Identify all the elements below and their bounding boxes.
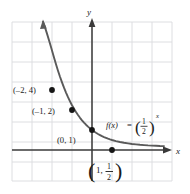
point-0-1 bbox=[89, 127, 95, 133]
paren-close: ) bbox=[115, 158, 122, 183]
base-denominator: 2 bbox=[142, 127, 146, 136]
fraction-denominator: 2 bbox=[107, 173, 111, 182]
function-name: f(x) bbox=[106, 120, 118, 130]
point-neg1-2 bbox=[69, 107, 75, 113]
func-paren-open: ( bbox=[135, 118, 141, 137]
y-axis-label: y bbox=[86, 7, 91, 17]
equals-sign: = bbox=[127, 120, 132, 130]
point-neg2-4 bbox=[49, 87, 55, 93]
point-label-0-1: (0, 1) bbox=[57, 135, 76, 145]
fraction-numerator: 1 bbox=[107, 162, 111, 171]
base-numerator: 1 bbox=[142, 117, 146, 126]
point-label-neg1-2: (–1, 2) bbox=[32, 106, 55, 116]
func-paren-close: ) bbox=[149, 118, 155, 137]
x-axis-label: x bbox=[175, 146, 180, 156]
graph-canvas: y x (–2, 4) (–1, 2) (0, 1) ( 1, 1 2 ) f(… bbox=[0, 0, 190, 194]
paren-open: ( bbox=[88, 158, 95, 183]
exponent: x bbox=[155, 112, 159, 119]
point-1-half bbox=[109, 147, 115, 153]
paren-x-value: 1, bbox=[96, 165, 103, 175]
point-label-neg2-4: (–2, 4) bbox=[13, 85, 36, 95]
exponential-function-figure: y x (–2, 4) (–1, 2) (0, 1) ( 1, 1 2 ) f(… bbox=[0, 0, 190, 194]
